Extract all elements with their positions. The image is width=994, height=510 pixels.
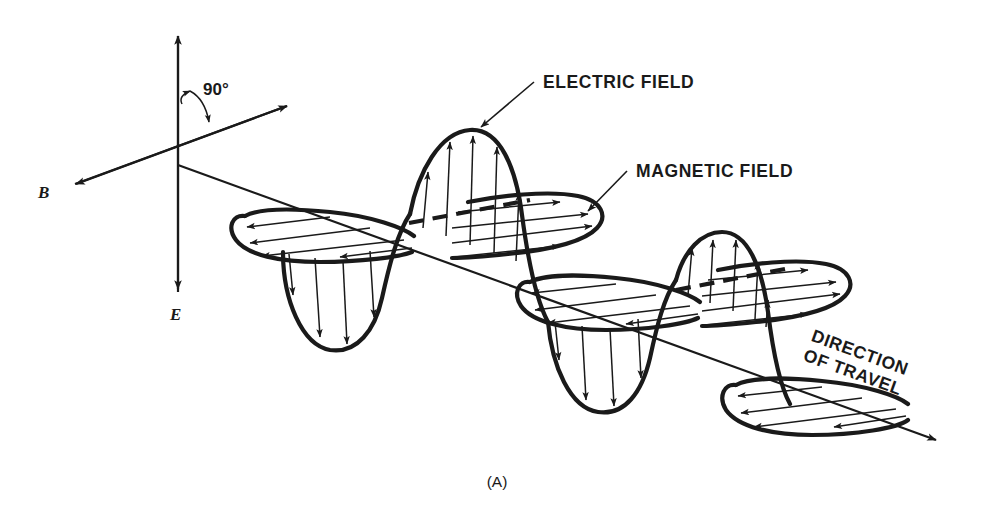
e-arrow: [315, 258, 320, 337]
e-arrow: [710, 240, 713, 303]
e-arrow: [582, 326, 586, 400]
electric-lobe-1-negative: [283, 214, 410, 350]
magnetic-field-label: MAGNETIC FIELD: [636, 161, 793, 181]
b-arrow: [702, 282, 836, 296]
e-arrow: [733, 240, 736, 311]
figure-caption: (A): [487, 473, 508, 490]
b-arrow: [535, 295, 656, 310]
e-arrow: [610, 329, 614, 406]
figure-page: ELECTRIC FIELD MAGNETIC FIELD 90° B E DI…: [0, 0, 994, 510]
b-arrow: [247, 217, 330, 227]
magnetic-field-leader: [588, 171, 627, 211]
dashed-b-line-2: [676, 268, 790, 290]
b-arrow: [548, 306, 690, 323]
b-axis-downleft: [76, 106, 287, 184]
b-arrow: [532, 284, 616, 293]
e-arrow: [423, 172, 428, 228]
b-arrow: [452, 214, 588, 228]
electric-field-leader: [481, 82, 534, 127]
e-arrow: [470, 136, 473, 245]
e-arrow: [343, 261, 347, 344]
angle-label: 90°: [203, 80, 229, 99]
hidden-b-dashed-2: [676, 268, 790, 290]
e-axis-label: E: [169, 305, 181, 324]
magnetic-lobe-1-upper: [245, 210, 414, 236]
magnetic-lobe-1: [231, 210, 414, 262]
em-wave-diagram: ELECTRIC FIELD MAGNETIC FIELD 90° B E DI…: [0, 0, 994, 510]
b-axis-label: B: [37, 183, 49, 202]
e-arrow: [446, 142, 450, 236]
angle-arc-upper: [181, 91, 190, 104]
b-arrow: [250, 228, 370, 243]
electric-field-label: ELECTRIC FIELD: [543, 72, 694, 92]
